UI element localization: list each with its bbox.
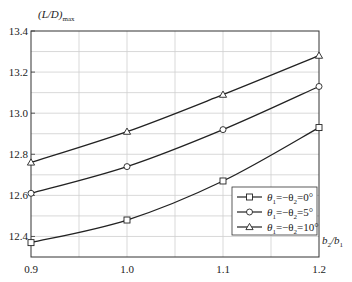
x-tick-label: 1.2 [312,263,326,275]
triangle-marker-icon [315,52,322,58]
circle-marker-icon [124,164,130,170]
y-tick-label: 12.6 [9,189,29,201]
square-marker-icon [220,178,226,184]
circle-marker-icon [28,190,34,196]
y-tick-label: 13.2 [9,66,28,78]
square-marker-icon [28,240,34,246]
x-tick-label: 0.9 [24,263,38,275]
x-tick-label: 1.0 [120,263,134,275]
circle-marker-icon [247,209,253,215]
circle-marker-icon [316,83,322,89]
y-tick-label: 12.4 [9,230,29,242]
x-axis-ticks: 0.91.01.11.2 [24,263,326,275]
y-tick-label: 12.8 [9,148,29,160]
x-tick-label: 1.1 [216,263,230,275]
y-tick-label: 13.0 [9,107,29,119]
y-tick-label: 13.4 [9,25,29,37]
square-marker-icon [316,125,322,131]
circle-marker-icon [220,127,226,133]
y-axis-label: (L/D)max [38,8,75,23]
x-axis-label: b2/b1 [322,234,344,249]
line-chart: 12.412.612.813.013.213.4 0.91.01.11.2 (L… [0,0,352,282]
square-marker-icon [247,194,253,200]
legend: θ1=−θ2=0°θ1=−θ2=5°θ1=−θ2=10° [232,187,319,236]
square-marker-icon [124,217,130,223]
